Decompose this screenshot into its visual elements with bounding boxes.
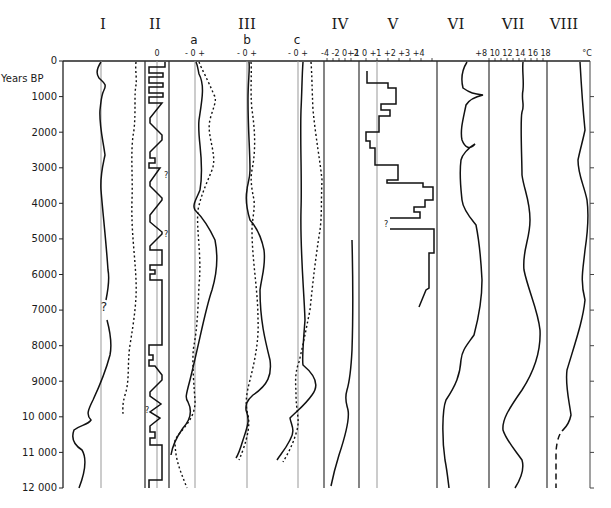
tick-c: - 0 + — [288, 49, 308, 58]
y-tick-10000: 10 000 — [22, 411, 57, 422]
y-tick-6000: 6000 — [32, 269, 57, 280]
y-tick-11000: 11 000 — [22, 447, 57, 458]
panel-vi-solid-line — [443, 62, 483, 488]
panel-ii-question-1: ? — [164, 171, 168, 180]
panel-viii-solid-line — [562, 62, 588, 431]
panel-viii-dashed-line — [556, 434, 560, 488]
panel-title-vii: VII — [501, 15, 525, 33]
panel-v-step-line — [366, 71, 434, 307]
tick-unit-c: °C — [582, 49, 592, 58]
panel-i-question: ? — [101, 300, 107, 314]
right-axis-ticks — [590, 97, 594, 488]
panel-vii-solid-line — [503, 62, 540, 488]
panel-v-question: ? — [384, 220, 388, 229]
panel-title-iii: III — [238, 15, 256, 33]
y-tick-2000: 2000 — [32, 127, 57, 138]
tick-vii: +8 10 12 14 16 18 — [475, 49, 550, 58]
panel-title-viii: VIII — [549, 15, 579, 33]
tick-b: - 0 + — [237, 49, 257, 58]
panel-i-dashed-line — [123, 62, 136, 415]
y-tick-5000: 5000 — [32, 233, 57, 244]
y-tick-8000: 8000 — [32, 340, 57, 351]
panel-iiic-solid-line — [277, 62, 316, 460]
y-tick-4000: 4000 — [32, 198, 57, 209]
panel-title-i: I — [100, 15, 106, 33]
panel-title-v: V — [387, 15, 400, 33]
panel-ii-question-2: ? — [164, 230, 168, 239]
y-tick-7000: 7000 — [32, 304, 57, 315]
panel-i-solid-line — [73, 62, 111, 488]
panel-iv-solid-line — [331, 240, 353, 486]
tick-v: -1 0 +1 +2 +3 +4 — [352, 49, 425, 58]
panel-title-iv: IV — [332, 15, 350, 33]
sub-label-a: a — [190, 33, 197, 47]
y-axis-label: Years BP — [0, 73, 43, 84]
paleoclimate-chart: I II III IV V VI VII VIII a b c 0 - 0 + … — [0, 0, 611, 508]
panel-ii-question-3: ? — [145, 406, 149, 415]
y-tick-0: 0 — [51, 55, 57, 66]
panel-title-ii: II — [149, 15, 161, 33]
tick-a: - 0 + — [185, 49, 205, 58]
y-tick-3000: 3000 — [32, 162, 57, 173]
panel-title-vi: VI — [447, 15, 465, 33]
y-tick-9000: 9000 — [32, 376, 57, 387]
panel-reference-lines — [101, 61, 547, 488]
y-tick-1000: 1000 — [32, 91, 57, 102]
sub-label-b: b — [243, 33, 251, 47]
y-tick-12000: 12 000 — [22, 482, 57, 493]
sub-label-c: c — [294, 33, 301, 47]
tick-ii-zero: 0 — [154, 49, 159, 58]
